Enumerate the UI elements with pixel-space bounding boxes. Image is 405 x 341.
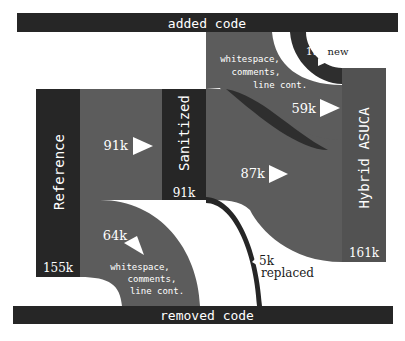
flow-sanitized-removed-note: replaced (261, 266, 314, 280)
node-hybrid-value: 161k (349, 246, 380, 260)
flow-ref-removed-line2: comments, (128, 274, 177, 284)
sankey-diagram: added code removed code Reference 155k S… (0, 0, 405, 341)
flow-ref-sanitized-value: 91k (104, 138, 129, 153)
flow-added-hybrid-ws-value: 59k (292, 101, 317, 116)
node-sanitized-value: 91k (173, 186, 196, 200)
flow-ref-removed-value: 64k (103, 228, 128, 243)
node-hybrid-label: Hybrid ASUCA (356, 107, 372, 209)
flow-added-hybrid-new-note: new (328, 46, 349, 57)
node-sanitized-label: Sanitized (176, 95, 192, 171)
flow-sanitized-hybrid-value: 87k (241, 166, 266, 181)
flow-ref-removed-line3: line cont. (130, 286, 184, 296)
flow-added-ws-line1: whitespace, (220, 54, 280, 64)
node-reference-label: Reference (51, 134, 67, 210)
flow-ref-removed-line1: whitespace, (110, 262, 170, 272)
flow-added-hybrid-new-value: 15k (306, 45, 327, 58)
removed-code-label: removed code (160, 308, 254, 323)
node-reference-value: 155k (43, 261, 74, 275)
added-code-label: added code (168, 16, 246, 31)
flow-added-ws-line2: comments, (232, 67, 281, 77)
flow-added-ws-line3: line cont. (253, 80, 307, 90)
